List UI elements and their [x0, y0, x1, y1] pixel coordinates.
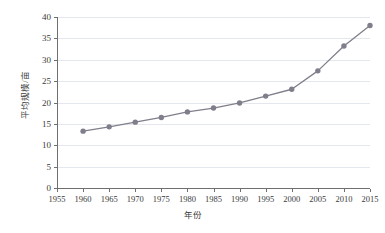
data-point-marker	[80, 128, 85, 133]
x-tick	[109, 189, 110, 192]
chart-container: 平均规模/亩 0510152025303540 1955196019651970…	[0, 0, 385, 233]
y-tick-label: 10	[42, 140, 51, 150]
data-series-line	[57, 17, 370, 189]
x-tick	[240, 189, 241, 192]
data-point-marker	[185, 109, 190, 114]
x-tick-label: 1990	[231, 194, 248, 204]
x-tick-label: 1965	[101, 194, 118, 204]
y-tick-label: 30	[42, 55, 51, 65]
data-point-marker	[315, 68, 320, 73]
x-tick-label: 1985	[205, 194, 222, 204]
x-tick	[161, 189, 162, 192]
data-point-marker	[211, 105, 216, 110]
x-tick	[318, 189, 319, 192]
x-tick-label: 2015	[362, 194, 379, 204]
x-tick	[292, 189, 293, 192]
x-tick	[57, 189, 58, 192]
x-tick-label: 2010	[335, 194, 352, 204]
x-tick-label: 2005	[309, 194, 326, 204]
x-tick-label: 1995	[257, 194, 274, 204]
x-tick	[370, 189, 371, 192]
y-tick-label: 35	[42, 33, 51, 43]
x-tick	[187, 189, 188, 192]
plot-area: 0510152025303540 19551960196519701975198…	[57, 17, 370, 188]
x-tick-label: 1970	[127, 194, 144, 204]
data-point-marker	[159, 115, 164, 120]
x-tick-label: 1975	[153, 194, 170, 204]
data-point-marker	[367, 23, 372, 28]
x-tick	[266, 189, 267, 192]
data-point-marker	[289, 87, 294, 92]
y-tick-label: 25	[42, 76, 51, 86]
y-tick-label: 5	[47, 162, 52, 172]
data-point-marker	[237, 100, 242, 105]
x-axis-title: 年份	[0, 208, 385, 220]
x-tick-label: 1980	[179, 194, 196, 204]
x-tick-label: 1960	[75, 194, 92, 204]
x-tick	[83, 189, 84, 192]
y-tick-label: 0	[47, 183, 52, 193]
y-tick-label: 20	[42, 98, 51, 108]
x-tick	[135, 189, 136, 192]
y-axis-title-text: 平均规模/亩	[18, 71, 30, 118]
data-point-marker	[133, 119, 138, 124]
x-tick-label: 2000	[283, 194, 300, 204]
data-point-marker	[106, 124, 111, 129]
x-tick	[214, 189, 215, 192]
y-axis-title: 平均规模/亩	[14, 0, 34, 190]
x-tick-label: 1955	[49, 194, 66, 204]
y-tick-label: 15	[42, 119, 51, 129]
x-tick	[344, 189, 345, 192]
data-point-marker	[263, 93, 268, 98]
data-point-marker	[341, 43, 346, 48]
series-polyline	[83, 26, 370, 132]
x-axis-title-text: 年份	[184, 210, 202, 220]
y-tick-label: 40	[42, 12, 51, 22]
